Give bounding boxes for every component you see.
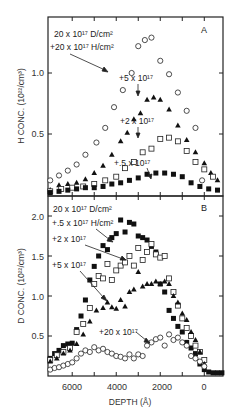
annotation-a-2: +2 x 10¹⁷ [120,116,154,126]
ytick-a-1.0: 1.0 [31,68,44,78]
data-point [184,343,189,348]
data-point [202,364,207,369]
data-point [180,316,185,321]
data-point [109,278,114,283]
data-point [70,341,75,346]
data-point [201,160,207,165]
data-point [109,152,115,157]
data-point [193,149,199,154]
data-point [120,87,125,92]
data-point [80,331,86,336]
data-point [211,370,216,375]
annotation-b-05: +.5 x 10¹⁷ H/cm² [52,218,114,228]
data-point [122,303,128,308]
data-point [56,173,61,178]
data-point [136,234,141,239]
data-point [127,352,132,357]
data-point [162,171,167,176]
data-point [179,311,185,316]
data-point [101,243,106,248]
data-point [140,235,145,240]
data-point [199,178,204,183]
annotation-b-20: +20 x 10¹⁷ [99,327,138,337]
data-point [184,326,189,331]
data-point [124,130,130,135]
data-point [149,35,154,40]
data-point [87,306,92,311]
data-point [74,162,79,167]
data-point [175,90,180,95]
data-point [197,359,202,364]
data-point [215,188,220,193]
data-point [83,298,88,303]
data-point [81,322,86,327]
data-point [151,94,157,99]
xtick-2000: 2000 [152,382,172,392]
data-point [175,335,180,340]
data-point [184,137,190,142]
data-point [70,360,75,365]
y-axis-title-a: H CONC. (10²²/cm³) [16,68,26,144]
data-point [211,174,216,179]
data-point [96,254,101,259]
data-point [175,122,181,127]
data-point [175,324,180,329]
data-point [127,220,132,225]
annotation-a-5: +5 x 10¹⁷ [119,73,153,83]
data-point [153,279,159,284]
data-point [136,175,141,180]
data-point [94,307,100,312]
data-point [109,304,115,309]
data-point [87,319,93,324]
data-point [175,299,181,304]
data-point [158,335,163,340]
y-axis-title-b: D CONC. (10²²/cm³) [16,248,26,324]
data-point [184,108,189,113]
data-point [114,231,119,236]
annotation-a-20: +20 x 10¹⁷ H/cm² [50,42,114,52]
data-point [65,168,70,173]
data-point [127,178,132,183]
data-point [206,370,211,375]
data-point [149,242,154,247]
data-point [105,262,110,267]
data-point [149,146,154,151]
annotation-b-2: +2 x 10¹⁷ [52,234,86,244]
panel-b-label: B [201,203,207,213]
data-point [144,97,150,102]
data-point [79,314,84,319]
data-point [215,370,220,375]
data-point [162,343,167,348]
data-point [92,264,97,269]
data-point [74,356,79,361]
data-point [162,290,167,295]
data-point [153,171,158,176]
data-point [131,263,136,268]
data-point [166,332,171,337]
ytick-b-0.5: 0.5 [31,331,44,341]
data-point [114,174,119,179]
data-point [167,276,172,281]
data-point [158,136,163,141]
depth-profile-figure: A B 0.5 1.0 0.5 1.0 1.5 2.0 6000 4000 20… [0,0,238,417]
data-point [131,222,136,227]
data-point [180,174,185,179]
data-point [100,305,106,310]
annotation-a-05: +.5 x 10¹⁷ [114,158,150,168]
annotation-arrows [70,54,152,343]
data-point [219,370,224,375]
data-point [140,258,145,263]
data-point [166,72,171,77]
data-point [197,184,202,189]
data-point [123,230,128,235]
data-point [162,254,167,259]
data-point [175,139,180,144]
data-point [114,268,119,273]
data-point [136,44,141,49]
data-point [94,140,99,145]
ytick-b-2.0: 2.0 [31,212,44,222]
data-point [144,281,150,286]
data-point [57,189,62,194]
data-point [74,186,79,191]
data-point [70,185,75,190]
